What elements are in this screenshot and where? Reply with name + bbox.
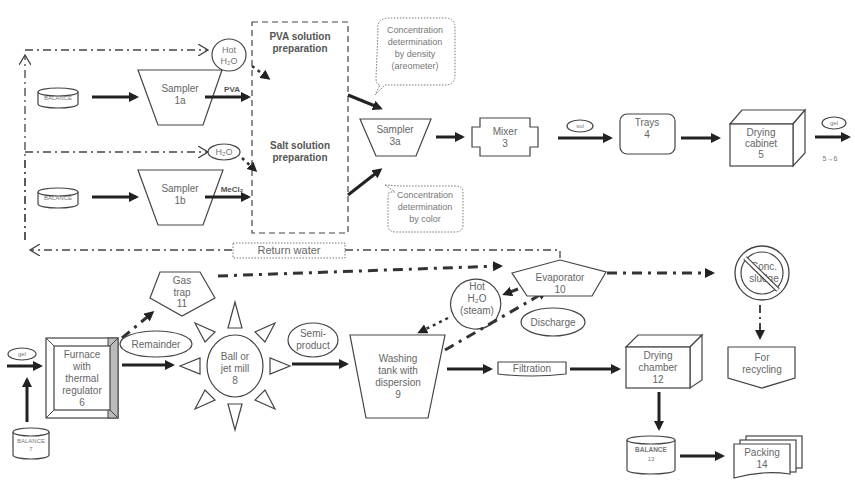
svg-text:13: 13	[648, 456, 655, 462]
svg-text:Hot: Hot	[469, 281, 485, 292]
flow-note: 5→6	[823, 155, 838, 162]
gel-tag-in: gel	[8, 348, 36, 360]
svg-text:3: 3	[502, 138, 508, 149]
svg-text:5: 5	[758, 149, 764, 160]
svg-text:cabinet: cabinet	[745, 138, 777, 149]
svg-text:gel: gel	[18, 351, 26, 357]
svg-text:8: 8	[232, 375, 238, 386]
svg-text:Filtration: Filtration	[513, 363, 551, 374]
evaporator-10: Evaporator 10	[512, 260, 606, 296]
svg-text:9: 9	[395, 389, 401, 400]
sampler-3a: Sampler 3a	[360, 119, 431, 156]
svg-text:Ball or: Ball or	[221, 351, 250, 362]
svg-text:sol: sol	[576, 123, 584, 129]
svg-text:by density: by density	[395, 49, 436, 59]
svg-text:12: 12	[652, 374, 664, 385]
svg-text:14: 14	[756, 459, 768, 470]
svg-text:H₂O: H₂O	[221, 56, 238, 66]
svg-text:(areometer): (areometer)	[391, 61, 438, 71]
discharge-tag: Discharge	[521, 308, 585, 336]
svg-text:Concentration: Concentration	[387, 25, 443, 35]
callout-density: Concentration determination by density (…	[375, 18, 455, 95]
svg-text:PVA solution: PVA solution	[269, 31, 330, 42]
svg-text:MeCl₂: MeCl₂	[221, 185, 244, 194]
trays-4: Trays 4	[620, 114, 675, 154]
svg-text:11: 11	[177, 298, 188, 309]
svg-text:Furnace: Furnace	[64, 349, 101, 360]
svg-text:3a: 3a	[389, 136, 401, 147]
mill-8: Ball or jet mill 8	[180, 302, 290, 430]
svg-text:dispersion: dispersion	[375, 377, 421, 388]
svg-text:H₂O: H₂O	[468, 293, 487, 304]
svg-text:Sampler: Sampler	[376, 124, 414, 135]
balance-1: BALANCE	[38, 88, 78, 108]
drying-cabinet-5: Drying cabinet 5	[730, 110, 805, 166]
sol-tag: sol	[567, 120, 593, 132]
svg-text:Trays: Trays	[635, 117, 660, 128]
svg-text:Remainder: Remainder	[132, 339, 182, 350]
svg-text:BALANCE: BALANCE	[44, 95, 72, 101]
svg-text:Semi-: Semi-	[300, 328, 326, 339]
svg-text:4: 4	[644, 129, 650, 140]
svg-text:Gas: Gas	[173, 275, 191, 286]
svg-text:thermal: thermal	[65, 373, 98, 384]
svg-text:For: For	[755, 352, 771, 363]
svg-text:(steam): (steam)	[460, 305, 494, 316]
water-bubble: H₂O	[208, 144, 240, 160]
svg-text:Concentration: Concentration	[397, 190, 453, 200]
remainder-tag: Remainder	[120, 331, 192, 357]
svg-text:Salt solution: Salt solution	[270, 140, 330, 151]
filtration: Filtration	[498, 362, 566, 376]
svg-text:10: 10	[554, 284, 566, 295]
svg-text:Drying: Drying	[644, 350, 673, 361]
svg-text:1b: 1b	[174, 195, 186, 206]
svg-text:Mixer: Mixer	[493, 126, 518, 137]
svg-text:with: with	[72, 361, 91, 372]
solution-preparation-box: PVA solution preparation Salt solution p…	[252, 22, 348, 233]
packing-14: Packing 14	[734, 436, 802, 478]
washing-tank-9: Washing tank with dispersion 9	[350, 335, 445, 418]
svg-text:Drying: Drying	[747, 127, 776, 138]
svg-text:tank with: tank with	[378, 365, 417, 376]
svg-text:Return water: Return water	[258, 244, 321, 256]
svg-text:BALANCE: BALANCE	[635, 446, 667, 453]
svg-text:Packing: Packing	[744, 447, 780, 458]
drying-chamber-12: Drying chamber 12	[626, 335, 702, 388]
balance-13: BALANCE 13	[627, 436, 675, 474]
gel-tag-out: gel	[822, 117, 846, 129]
balance-2: BALANCE	[38, 188, 78, 208]
svg-text:jet mill: jet mill	[220, 363, 249, 374]
conc-sludge-prohibited: Conc. sludge	[735, 246, 789, 300]
hot-water-bubble: Hot H₂O	[212, 39, 246, 71]
svg-text:Washing: Washing	[379, 353, 418, 364]
svg-text:H₂O: H₂O	[216, 147, 233, 157]
gas-trap-11: Gas trap 11	[150, 272, 215, 316]
svg-text:Discharge: Discharge	[530, 317, 575, 328]
svg-text:gel: gel	[830, 120, 838, 126]
svg-text:6: 6	[79, 397, 85, 408]
svg-text:1a: 1a	[174, 95, 186, 106]
svg-text:PVA: PVA	[224, 85, 240, 94]
svg-text:Evaporator: Evaporator	[536, 272, 586, 283]
furnace-6: Furnace with thermal regulator 6	[46, 338, 118, 418]
semi-product-tag: Semi- product	[288, 323, 338, 357]
svg-text:trap: trap	[173, 287, 191, 298]
mixer-3: Mixer 3	[472, 118, 538, 156]
callout-color: Concentration determination by color	[385, 185, 463, 232]
svg-text:by color: by color	[409, 214, 441, 224]
svg-text:chamber: chamber	[639, 362, 679, 373]
for-recycling: For recycling	[728, 347, 795, 388]
svg-text:BALANCE: BALANCE	[44, 195, 72, 201]
svg-text:determination: determination	[398, 202, 453, 212]
balance-7: BALANCE 7	[13, 428, 49, 459]
svg-text:determination: determination	[388, 37, 443, 47]
process-flow-diagram: BALANCE BALANCE Sampler 1a Sampler 1b Ho…	[0, 0, 855, 486]
svg-text:BALANCE: BALANCE	[17, 438, 45, 444]
svg-text:preparation: preparation	[272, 43, 327, 54]
svg-text:recycling: recycling	[742, 364, 781, 375]
svg-text:preparation: preparation	[272, 152, 327, 163]
svg-text:Sampler: Sampler	[161, 83, 199, 94]
return-water-label: Return water	[233, 243, 345, 258]
svg-text:regulator: regulator	[62, 385, 102, 396]
svg-text:product: product	[296, 340, 330, 351]
